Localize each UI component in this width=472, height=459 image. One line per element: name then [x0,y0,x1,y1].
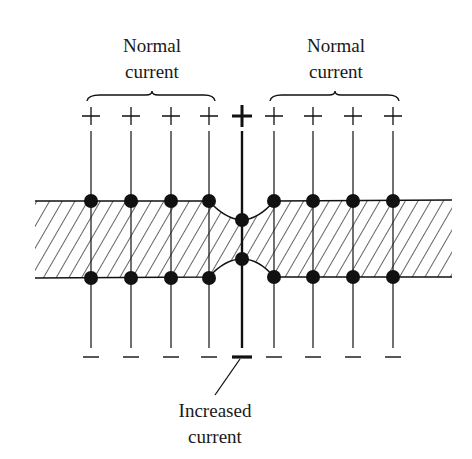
current-constriction-diagram [0,0,472,459]
right-brace [270,91,399,101]
label-line: current [100,59,204,85]
positive-charges [82,105,402,127]
label-line: Increased [160,398,270,424]
left-normal-current-label: Normal current [100,33,204,85]
increased-current-label: Increased current [160,398,270,450]
label-line: current [160,424,270,450]
label-line: Normal [100,33,204,59]
label-line: Normal [284,33,388,59]
label-line: current [284,59,388,85]
right-normal-current-label: Normal current [284,33,388,85]
left-brace [87,91,215,101]
leader-line [215,359,240,395]
